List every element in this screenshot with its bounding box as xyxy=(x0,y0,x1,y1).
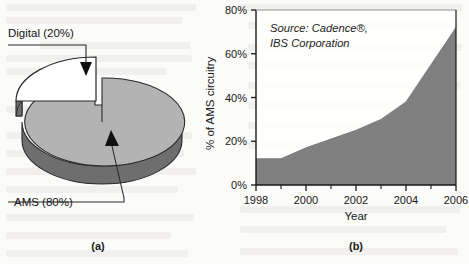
y-axis-tick-labels: 0%20%40%60%80% xyxy=(225,4,247,191)
x-tick-label: 2000 xyxy=(294,194,318,206)
x-tick-label: 2004 xyxy=(394,194,418,206)
pie-label-digital: Digital (20%) xyxy=(8,27,74,39)
y-tick-label: 80% xyxy=(225,4,247,16)
y-axis-ticks xyxy=(251,10,256,185)
y-tick-label: 40% xyxy=(225,92,247,104)
x-tick-label: 2006 xyxy=(444,194,468,206)
y-tick-label: 0% xyxy=(231,179,247,191)
source-annotation-line-2: IBS Corporation xyxy=(270,37,350,49)
area-chart-graphic: 0%20%40%60%80% 19982000200220042006 % of… xyxy=(200,0,469,232)
pie-label-ams: AMS (80%) xyxy=(14,196,73,208)
x-axis-tick-labels: 19982000200220042006 xyxy=(244,194,468,206)
y-tick-label: 60% xyxy=(225,48,247,60)
caption-panel-a: (a) xyxy=(78,240,118,252)
source-annotation-line-1: Source: Cadence®, xyxy=(270,22,368,34)
area-chart-figure: 0%20%40%60%80% 19982000200220042006 % of… xyxy=(200,0,469,264)
caption-panel-b: (b) xyxy=(336,240,376,252)
x-axis-title: Year xyxy=(344,210,367,222)
x-axis-ticks xyxy=(256,185,456,191)
y-axis-title: % of AMS circuitry xyxy=(204,56,216,150)
pie-chart-figure: Digital (20%) AMS (80%) (a) xyxy=(0,0,205,264)
x-tick-label: 1998 xyxy=(244,194,268,206)
x-tick-label: 2002 xyxy=(344,194,368,206)
y-tick-label: 20% xyxy=(225,135,247,147)
